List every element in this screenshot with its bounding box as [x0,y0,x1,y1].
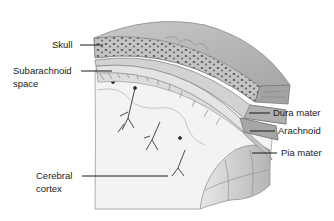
subarachnoid-label-line1: Subarachnoid [13,65,72,76]
subarachnoid-label-line2: space [13,78,38,89]
pia-mater-label: Pia mater [281,147,322,158]
cerebral-cortex-label-line1: Cerebral [36,170,72,181]
cerebral-cortex-label-line2: cortex [36,183,62,194]
arachnoid-label: Arachnoid [278,125,321,136]
meninges-diagram: Skull Subarachnoid space Dura mater Arac… [0,0,334,221]
skull-label: Skull [52,39,73,50]
dura-mater-label: Dura mater [273,107,321,118]
